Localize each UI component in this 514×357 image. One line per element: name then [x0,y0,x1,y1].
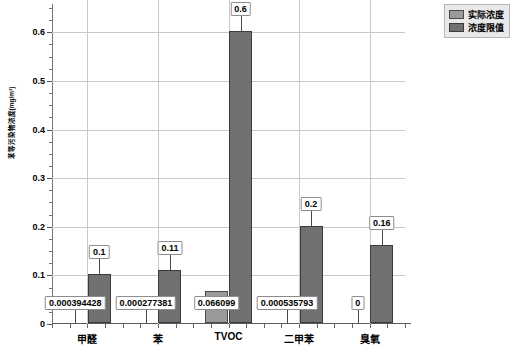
x-axis-tick [140,324,141,328]
x-axis-tick [123,324,124,328]
legend-swatch-icon [449,10,464,19]
y-axis-tick [47,227,52,228]
y-axis-minor-tick [49,105,52,106]
x-axis-tick [52,324,53,328]
y-axis-tick-label: 0.4 [32,125,45,135]
y-axis-minor-tick [49,93,52,94]
y-axis-minor-tick [49,312,52,313]
data-label: 0.11 [157,241,182,255]
y-axis-tick-label: 0.5 [32,76,45,86]
x-axis-tick [405,324,406,328]
x-axis-tick [299,324,300,328]
y-axis-tick [47,130,52,131]
data-label: 0.000277381 [116,296,177,310]
plot-area: 00.10.20.30.40.50.60.0003944280.1甲醛0.000… [52,8,405,324]
y-axis-minor-tick [49,142,52,143]
bar-chart: 苯等污染物浓度(mg/m³) 00.10.20.30.40.50.60.0003… [0,0,514,357]
y-axis-tick-label: 0.6 [32,27,45,37]
x-axis-tick [317,324,318,328]
x-axis-category-label: 二甲苯 [284,331,314,346]
y-axis-minor-tick [49,239,52,240]
x-axis-tick [105,324,106,328]
label-leader-line [75,310,76,324]
legend-item[interactable]: 实际浓度 [449,8,504,21]
y-axis-minor-tick [49,190,52,191]
data-label: 0.000535793 [257,296,318,310]
x-axis-tick [387,324,388,328]
x-axis-category-label: 甲醛 [77,331,97,346]
x-axis-tick [281,324,282,328]
data-label: 0 [351,296,364,310]
y-axis-minor-tick [49,202,52,203]
data-label: 0.000394428 [45,296,106,310]
data-label: 0.6 [230,2,251,16]
y-axis-minor-tick [49,20,52,21]
legend-label: 实际浓度 [468,8,504,21]
x-axis-tick [246,324,247,328]
y-axis-minor-tick [49,154,52,155]
x-axis-category-label: 苯 [153,331,163,346]
label-leader-line [241,16,242,32]
y-axis-tick-label: 0 [40,319,45,329]
y-axis-minor-tick [49,215,52,216]
x-axis-category-label: 臭氧 [360,331,380,346]
x-axis-tick [334,324,335,328]
label-leader-line [99,259,100,275]
y-axis-minor-tick [49,69,52,70]
y-axis-tick [47,178,52,179]
legend-swatch-icon [449,23,464,32]
label-leader-line [311,211,312,227]
x-axis-tick [229,324,230,328]
x-axis-tick [70,324,71,328]
x-axis-tick [352,324,353,328]
label-leader-line [382,230,383,246]
y-axis-minor-tick [49,117,52,118]
y-axis-tick-label: 0.2 [32,222,45,232]
x-axis-tick [87,324,88,328]
y-axis-tick [47,32,52,33]
y-axis-minor-tick [49,288,52,289]
y-axis-tick [47,81,52,82]
label-leader-line [170,255,171,271]
bar[interactable] [229,31,252,323]
y-axis-tick-label: 0.1 [32,270,45,280]
x-axis-tick [176,324,177,328]
x-axis-category-label: TVOC [215,331,243,342]
y-axis-minor-tick [49,44,52,45]
y-axis-minor-tick [49,166,52,167]
y-axis-minor-tick [49,263,52,264]
y-axis-minor-tick [49,251,52,252]
data-label: 0.2 [301,197,322,211]
label-leader-line [146,310,147,324]
y-axis-title: 苯等污染物浓度(mg/m³) [6,58,16,188]
bar[interactable] [370,245,393,323]
x-axis-tick [211,324,212,328]
y-axis-tick [47,275,52,276]
plot-inner: 00.10.20.30.40.50.60.0003944280.1甲醛0.000… [52,8,405,324]
x-axis-tick [264,324,265,328]
x-axis-tick [193,324,194,328]
legend-label: 浓度限值 [468,21,504,34]
legend-item[interactable]: 浓度限值 [449,21,504,34]
label-leader-line [287,310,288,324]
legend: 实际浓度 浓度限值 [444,4,510,38]
label-leader-line [358,310,359,324]
y-axis-tick-label: 0.3 [32,173,45,183]
data-label: 0.1 [89,245,110,259]
data-label: 0.16 [369,216,395,230]
y-axis-minor-tick [49,8,52,9]
y-axis-minor-tick [49,57,52,58]
x-axis-tick [370,324,371,328]
x-axis-tick [158,324,159,328]
data-label: 0.066099 [194,296,240,310]
